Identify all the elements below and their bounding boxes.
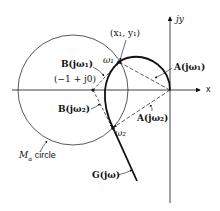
critical-point-label: (−1 + j0) — [54, 75, 96, 84]
a-jw1-vector — [119, 62, 170, 90]
x-axis-label: x — [206, 85, 211, 94]
point-x1y1-label: (x₁, y₁) — [110, 29, 140, 38]
g-curve-leader — [118, 170, 132, 175]
omega1-point — [117, 60, 121, 64]
m-circle-label-text: circle — [32, 150, 56, 160]
y-axis-label: jy — [176, 15, 184, 24]
g-curve-label: G(jω) — [92, 171, 120, 180]
b-jw2-label: B(jω₂) — [58, 105, 90, 114]
b-jw2-leader — [91, 104, 100, 109]
a-jw2-leader — [150, 105, 152, 111]
omega1-label: ω₁ — [103, 56, 114, 65]
x1y1-leader — [120, 40, 126, 60]
m-circle-label-m: M — [19, 150, 28, 160]
a-jw1-label: A(jω₁) — [174, 63, 205, 72]
m-circle-label: Mα circle — [19, 151, 56, 162]
critical-point-dot — [91, 88, 94, 91]
b-jw2-vector — [93, 90, 112, 127]
b-jw1-label: B(jω₁) — [61, 60, 93, 69]
omega2-label: ω₂ — [115, 129, 126, 138]
a-jw2-label: A(jω₂) — [137, 114, 168, 123]
